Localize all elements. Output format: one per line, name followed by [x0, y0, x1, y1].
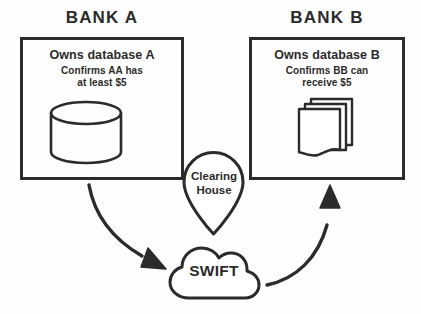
- bank-a-title: BANK A: [21, 8, 183, 27]
- arrow-bank-a-to-swift: [89, 185, 166, 269]
- documents-stack-icon: [299, 99, 352, 156]
- database-cylinder-icon: [51, 102, 121, 163]
- bank-payment-flow-diagram: BANK A BANK B Owns database A Confirms A…: [0, 0, 421, 314]
- bank-b-detail: Confirms BB can receive $5: [252, 65, 402, 89]
- bank-b-title: BANK B: [250, 8, 404, 27]
- swift-label: SWIFT: [178, 262, 250, 279]
- bank-a-headline: Owns database A: [26, 48, 178, 62]
- bank-b-headline: Owns database B: [252, 48, 402, 62]
- arrow-swift-to-bank-b: [267, 185, 340, 285]
- bank-a-detail: Confirms AA has at least $5: [26, 65, 178, 89]
- clearing-house-label: Clearing House: [181, 170, 247, 197]
